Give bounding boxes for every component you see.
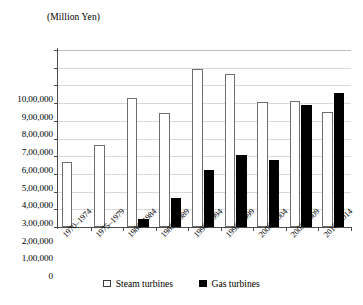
bar-steam-2000–2004 [257, 102, 268, 227]
filled-square-icon [199, 280, 207, 288]
y-axis-tick-label: 2,00,000 [22, 236, 53, 246]
y-axis-tick-label: 3,00,000 [22, 218, 53, 228]
bars-layer [58, 50, 351, 227]
bar-steam-2010–2014 [322, 112, 333, 227]
y-axis-tick-label: 7,00,000 [22, 147, 53, 157]
y-axis-tick-label: 8,00,000 [22, 129, 53, 139]
bar-gas-2005–2009 [301, 105, 312, 227]
x-axis-tick [351, 227, 352, 231]
hollow-square-icon [103, 280, 111, 288]
bar-steam-1995–1999 [225, 74, 236, 227]
bar-gas-2010–2014 [334, 93, 345, 227]
y-axis-tick-label: 6,00,000 [22, 165, 53, 175]
legend-label-steam-turbines: Steam turbines [116, 278, 173, 289]
bar-steam-1970–1974 [62, 162, 73, 227]
y-axis-tick-label: 9,00,000 [22, 112, 53, 122]
bar-steam-1985–1989 [159, 113, 170, 227]
y-axis-tick-labels: 01,00,0002,00,0003,00,0004,00,0005,00,00… [0, 50, 53, 227]
y-axis-tick-label: 5,00,000 [22, 183, 53, 193]
chart-legend: Steam turbines Gas turbines [0, 278, 363, 289]
x-axis-tick-labels: 1970–19741975–19791980–19841985–19891990… [58, 227, 351, 275]
bar-steam-1975–1979 [94, 145, 105, 227]
bar-steam-1990–1994 [192, 69, 203, 227]
bar-steam-2005–2009 [290, 101, 301, 227]
legend-item-gas-turbines: Gas turbines [199, 278, 260, 289]
y-axis-tick-label: 4,00,000 [22, 200, 53, 210]
y-axis-tick-label: 1,00,000 [22, 253, 53, 263]
y-axis-unit-label: (Million Yen) [47, 12, 100, 22]
bar-steam-1980–1984 [127, 98, 138, 227]
bar-chart-figure: (Million Yen) 01,00,0002,00,0003,00,0004… [0, 0, 363, 305]
legend-item-steam-turbines: Steam turbines [103, 278, 173, 289]
legend-label-gas-turbines: Gas turbines [212, 278, 260, 289]
y-axis-tick-label: 10,00,000 [17, 94, 53, 104]
plot-area [58, 50, 351, 227]
